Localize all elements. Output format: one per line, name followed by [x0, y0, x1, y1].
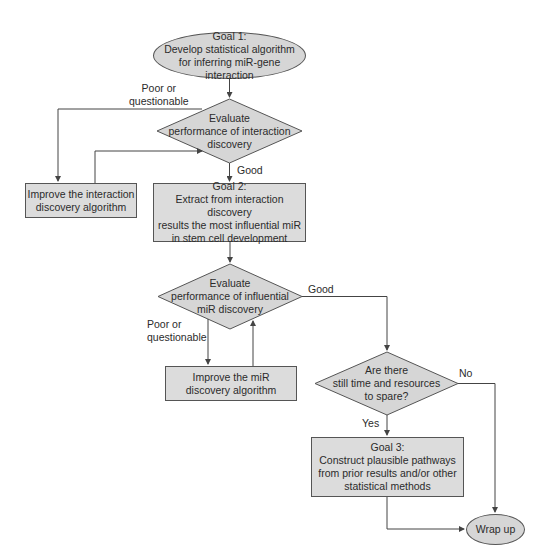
improve1-text: Improve the interaction discovery algori…: [28, 188, 135, 214]
goal2-node: Goal 2: Extract from interaction discove…: [153, 183, 306, 242]
goal1-text: Goal 1: Develop statistical algorithm fo…: [164, 30, 295, 82]
label-eval3-yes: Yes: [362, 417, 379, 430]
eval1-text: Evaluate performance of interaction disc…: [169, 112, 291, 151]
label-eval2-good: Good: [308, 283, 334, 296]
wrapup-text: Wrap up: [476, 523, 516, 536]
eval1-text-wrap: Evaluate performance of interaction disc…: [157, 99, 302, 163]
wrapup-end-node: Wrap up: [466, 514, 525, 545]
label-eval1-good: Good: [237, 164, 263, 177]
goal3-node: Goal 3: Construct plausible pathways fro…: [311, 437, 464, 497]
goal1-start-node: Goal 1: Develop statistical algorithm fo…: [153, 32, 306, 79]
label-eval3-no: No: [459, 367, 472, 380]
label-eval2-poor: Poor or questionable: [147, 318, 207, 344]
label-eval1-poor: Poor or questionable: [129, 82, 189, 108]
eval3-text-wrap: Are there still time and resources to sp…: [315, 352, 458, 415]
eval3-text: Are there still time and resources to sp…: [333, 364, 440, 403]
eval2-text: Evaluate performance of influential miR …: [171, 277, 289, 316]
improve-interaction-node: Improve the interaction discovery algori…: [25, 183, 137, 218]
goal2-text: Goal 2: Extract from interaction discove…: [154, 180, 305, 245]
improve2-text: Improve the miR discovery algorithm: [186, 371, 276, 397]
improve-mir-node: Improve the miR discovery algorithm: [165, 366, 297, 401]
goal3-text: Goal 3: Construct plausible pathways fro…: [318, 441, 456, 493]
